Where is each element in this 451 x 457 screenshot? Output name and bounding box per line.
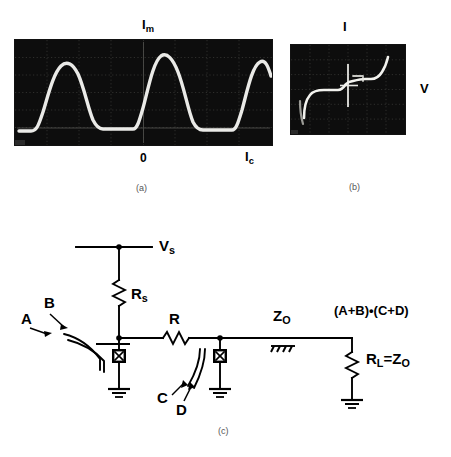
ground-symbol-3 [341, 400, 363, 408]
waveform-trace-a [15, 40, 272, 145]
label-beam-c: C [157, 390, 168, 405]
caption-c: (c) [218, 427, 229, 436]
caption-a: (a) [136, 184, 147, 193]
figure-root: Im [0, 0, 451, 457]
switch-1-symbol [112, 349, 126, 363]
label-rl-eq: =Z [383, 350, 401, 367]
panel-a-label-im: Im [142, 18, 154, 34]
junction-dot-supply [116, 244, 122, 250]
label-rl-main: R [366, 350, 377, 367]
label-z0-main: Z [273, 307, 282, 324]
label-beam-b: B [44, 295, 55, 310]
light-beam-pair-cd [188, 349, 205, 388]
label-rl-value-sub: O [401, 357, 409, 369]
panel-b-label-v: V [420, 82, 429, 95]
oscilloscope-screen-b [291, 45, 405, 134]
label-rs-sub: s [142, 292, 148, 304]
film-corner-b [291, 130, 298, 134]
light-beam-pair-ab [64, 334, 104, 372]
label-beam-a: A [21, 311, 32, 326]
panel-c: Vs Rs R ZO (A+B)•(C+D) RL=ZO A B C D (c) [0, 228, 451, 457]
resistor-r-symbol [163, 332, 189, 344]
beam-leader-lines-ab [30, 314, 64, 334]
label-r: R [169, 311, 180, 326]
label-beam-d: D [176, 402, 187, 417]
beam-arrowheads-cd [181, 380, 195, 390]
film-corner-a [15, 140, 25, 145]
resistor-rl-symbol [346, 352, 358, 378]
label-vs: Vs [159, 238, 175, 256]
panel-b-label-i: I [343, 20, 347, 33]
label-rs: Rs [131, 286, 148, 304]
label-z0: ZO [273, 308, 291, 326]
resistor-rs-symbol [113, 280, 125, 306]
ground-symbol-2 [209, 389, 231, 397]
switch-2-symbol [213, 349, 227, 363]
label-vs-sub: s [169, 244, 175, 256]
panel-a-label-ic-sub: c [249, 156, 254, 166]
caption-b: (b) [349, 183, 360, 192]
oscilloscope-screen-a [15, 40, 272, 145]
label-z0-sub: O [282, 314, 290, 326]
waveform-trace-b [291, 45, 405, 134]
label-rs-main: R [131, 285, 142, 302]
transmission-line-hatch-marks [271, 346, 295, 352]
label-logic-expression: (A+B)•(C+D) [334, 304, 409, 317]
junction-dot-node1 [116, 335, 122, 341]
label-vs-main: V [159, 237, 169, 254]
ground-symbol-1 [108, 389, 130, 397]
junction-dot-node2 [217, 335, 223, 341]
panel-a-label-zero: 0 [140, 152, 147, 164]
panel-a-label-im-sub: m [146, 24, 154, 34]
circuit-schematic [0, 228, 451, 457]
label-rl: RL=ZO [366, 351, 410, 369]
panel-a-label-ic: Ic [245, 150, 254, 166]
transmission-line-hatch [96, 228, 130, 344]
